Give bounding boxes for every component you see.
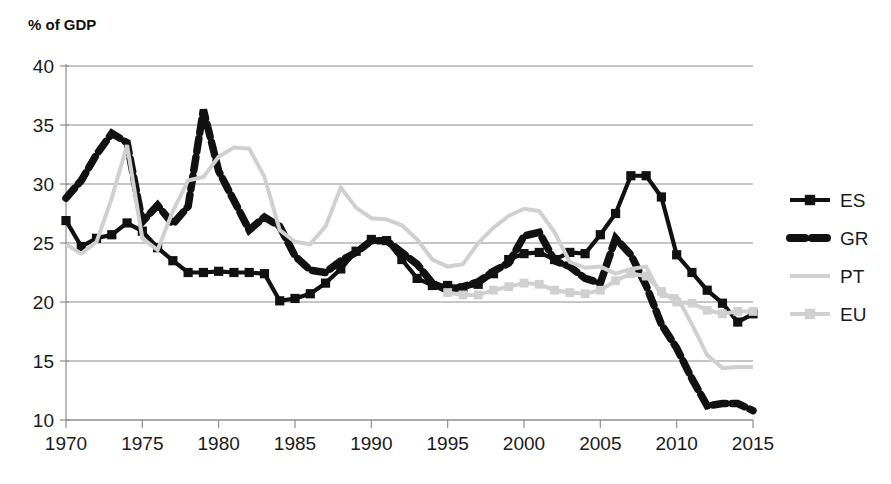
y-tick-label-10: 10 bbox=[33, 410, 54, 431]
series-marker-es bbox=[306, 289, 315, 298]
series-marker-eu bbox=[520, 279, 529, 288]
series-marker-es bbox=[229, 268, 238, 277]
x-tick-label-1975: 1975 bbox=[121, 433, 163, 454]
legend-label-pt[interactable]: PT bbox=[840, 266, 865, 287]
series-marker-es bbox=[61, 216, 70, 225]
series-marker-eu bbox=[642, 272, 651, 281]
series-marker-eu bbox=[718, 309, 727, 318]
y-tick-label-15: 15 bbox=[33, 351, 54, 372]
legend-label-eu[interactable]: EU bbox=[840, 304, 866, 325]
series-marker-es bbox=[657, 192, 666, 201]
x-tick-label-2015: 2015 bbox=[732, 433, 774, 454]
series-marker-es bbox=[535, 248, 544, 257]
legend-marker-es bbox=[805, 195, 815, 205]
series-marker-es bbox=[260, 269, 269, 278]
series-marker-es bbox=[290, 294, 299, 303]
x-tick-label-1995: 1995 bbox=[427, 433, 469, 454]
series-marker-eu bbox=[657, 287, 666, 296]
series-marker-eu bbox=[489, 286, 498, 295]
series-marker-eu bbox=[688, 299, 697, 308]
series-marker-eu bbox=[703, 306, 712, 315]
x-tick-label-2010: 2010 bbox=[656, 433, 698, 454]
legend-label-es[interactable]: ES bbox=[840, 190, 865, 211]
series-marker-eu bbox=[565, 288, 574, 297]
series-marker-es bbox=[703, 286, 712, 295]
series-marker-es bbox=[168, 256, 177, 265]
gdp-line-chart: 1015202530354019701975198019851990199520… bbox=[0, 0, 891, 484]
series-marker-eu bbox=[626, 269, 635, 278]
series-marker-eu bbox=[443, 288, 452, 297]
x-tick-label-1990: 1990 bbox=[350, 433, 392, 454]
series-marker-es bbox=[596, 230, 605, 239]
series-marker-eu bbox=[733, 307, 742, 316]
series-marker-eu bbox=[459, 291, 468, 300]
series-marker-es bbox=[321, 279, 330, 288]
series-marker-eu bbox=[611, 276, 620, 285]
series-marker-es bbox=[718, 299, 727, 308]
series-marker-es bbox=[199, 268, 208, 277]
x-tick-label-2000: 2000 bbox=[503, 433, 545, 454]
series-marker-es bbox=[733, 317, 742, 326]
legend-label-gr[interactable]: GR bbox=[840, 228, 869, 249]
series-marker-eu bbox=[550, 286, 559, 295]
x-tick-label-1970: 1970 bbox=[45, 433, 87, 454]
series-marker-es bbox=[245, 268, 254, 277]
y-tick-label-20: 20 bbox=[33, 292, 54, 313]
series-marker-eu bbox=[596, 286, 605, 295]
series-marker-eu bbox=[474, 291, 483, 300]
y-tick-label-30: 30 bbox=[33, 174, 54, 195]
chart-legend: ESGRPTEU bbox=[790, 190, 869, 325]
chart-canvas: 1015202530354019701975198019851990199520… bbox=[0, 0, 891, 484]
series-marker-eu bbox=[581, 289, 590, 298]
x-tick-label-1980: 1980 bbox=[198, 433, 240, 454]
series-marker-es bbox=[122, 218, 131, 227]
y-tick-label-25: 25 bbox=[33, 233, 54, 254]
series-marker-es bbox=[107, 230, 116, 239]
y-tick-label-35: 35 bbox=[33, 115, 54, 136]
y-axis-title: % of GDP bbox=[28, 16, 96, 33]
y-tick-label-40: 40 bbox=[33, 56, 54, 77]
series-marker-eu bbox=[749, 307, 758, 316]
series-marker-es bbox=[611, 209, 620, 218]
series-marker-es bbox=[275, 296, 284, 305]
series-marker-eu bbox=[672, 298, 681, 307]
series-marker-eu bbox=[535, 280, 544, 289]
series-marker-es bbox=[642, 171, 651, 180]
series-marker-es bbox=[184, 268, 193, 277]
series-marker-es bbox=[672, 250, 681, 259]
series-marker-es bbox=[626, 171, 635, 180]
x-tick-label-1985: 1985 bbox=[274, 433, 316, 454]
series-marker-es bbox=[519, 249, 528, 258]
x-tick-label-2005: 2005 bbox=[579, 433, 621, 454]
series-marker-es bbox=[687, 268, 696, 277]
series-marker-eu bbox=[504, 282, 513, 291]
series-marker-es bbox=[413, 274, 422, 283]
legend-marker-eu bbox=[805, 309, 815, 319]
series-marker-es bbox=[580, 249, 589, 258]
series-marker-es bbox=[214, 267, 223, 276]
